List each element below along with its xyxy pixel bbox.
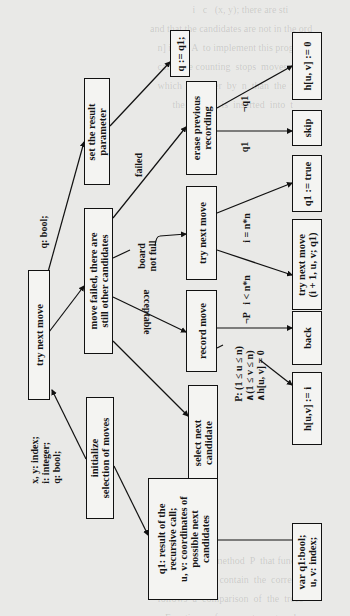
root-params-label: q: bool; [38, 215, 49, 248]
edge-label-not-p: ¬P [241, 312, 252, 324]
node-label: initialize selection of moves [89, 418, 111, 498]
node-label: record move [196, 303, 207, 359]
edge-label-not-q1: ¬q1 [239, 96, 250, 112]
node-initialize-selection: initialize selection of moves [86, 397, 114, 519]
node-assign-q: q := q1; [170, 30, 190, 77]
node-label: select next candidate [192, 419, 214, 465]
node-label: skip [302, 119, 313, 138]
node-label: try next move (i + 1, u, v; q1) [296, 232, 318, 297]
edge-label-board-not-full: board not full [136, 241, 158, 272]
node-q1-true: q1 := true [292, 155, 322, 212]
node-back: back [292, 311, 322, 365]
root-locals-label: x, y: index; i: integer; q: bool; [29, 436, 62, 484]
node-label: back [302, 327, 313, 349]
node-label: var q1:bool; u, v: index; [296, 535, 318, 590]
node-skip: skip [292, 110, 322, 146]
node-root-try-next-move: try next move [28, 270, 50, 400]
edge-label-q1: q1 [239, 142, 250, 153]
node-try-next-move-inner: try next move [186, 186, 217, 280]
node-label: try next move [34, 304, 45, 366]
node-erase-previous-recording: erase previous recording [186, 81, 217, 175]
node-label: h[u, v] := 0 [302, 41, 313, 90]
predicate-p-label: P: (1 ≤ u ≤ n) ∧(1 ≤ v ≤ n) ∧h[u, v] = 0 [233, 346, 266, 402]
node-h-assign-i: h[u,v] := i [292, 372, 322, 445]
edge-label-failed: failed [133, 153, 144, 177]
node-move-failed-loop: move failed, there are still other candi… [84, 208, 113, 354]
node-label: q := q1; [175, 36, 186, 71]
node-set-result-parameter: set the result parameter [84, 78, 110, 185]
node-label: q1 := true [302, 161, 313, 205]
edge-label-acceptable: acceptable [142, 290, 153, 335]
node-record-move: record move [186, 290, 217, 372]
node-h-reset-zero: h[u, v] := 0 [292, 32, 322, 100]
node-label: try next move [196, 202, 207, 264]
node-try-next-move-recursive: try next move (i + 1, u, v; q1) [292, 219, 322, 310]
node-label: set the result parameter [86, 103, 108, 160]
node-label: q1: result of the recursive call; u, v: … [156, 496, 211, 582]
edge-label-i-eq-nn: i = n*n [241, 213, 252, 243]
node-var-declaration: var q1:bool; u, v: index; [292, 523, 322, 601]
edge-label-i-lt-nn: i < n*n [241, 275, 252, 305]
node-label: h[u,v] := i [302, 386, 313, 430]
node-label: move failed, there are still other candi… [88, 233, 110, 330]
node-q1-result-note: q1: result of the recursive call; u, v: … [148, 478, 218, 600]
node-label: erase previous recording [191, 96, 213, 160]
